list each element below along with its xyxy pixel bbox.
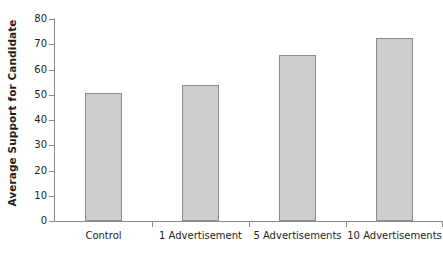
x-axis-tick [152,222,153,227]
x-axis-category-label: Control [55,230,152,242]
y-axis-tick [49,95,55,96]
y-axis-tick-label: 30 [34,140,47,150]
bar [376,38,413,221]
y-axis-title: Average Support for Candidate [0,0,24,226]
y-axis-tick [49,70,55,71]
y-axis-tick [49,44,55,45]
y-axis-tick [49,19,55,20]
y-axis-title-text: Average Support for Candidate [6,19,18,206]
y-axis-tick [49,221,55,222]
y-axis-tick [49,120,55,121]
x-axis-category-label: 5 Advertisements [249,230,346,242]
x-axis-category-label: 1 Advertisement [152,230,249,242]
y-axis-tick [49,196,55,197]
bar [279,55,316,221]
y-axis-tick-label: 80 [34,14,47,24]
y-axis-tick-label: 70 [34,39,47,49]
x-axis-category-label: 10 Advertisements [346,230,443,242]
x-axis-tick [249,222,250,227]
y-axis-tick [49,171,55,172]
bar [85,93,122,221]
y-axis-tick-label: 40 [34,115,47,125]
bar-chart: Average Support for Candidate 0102030405… [0,0,443,266]
bar [182,85,219,221]
y-axis-tick-label: 0 [41,216,47,226]
y-axis-tick-label: 50 [34,90,47,100]
x-axis-tick [346,222,347,227]
y-axis-tick-label: 60 [34,65,47,75]
y-axis-tick [49,145,55,146]
y-axis-tick-label: 20 [34,166,47,176]
y-axis-tick-label: 10 [34,191,47,201]
